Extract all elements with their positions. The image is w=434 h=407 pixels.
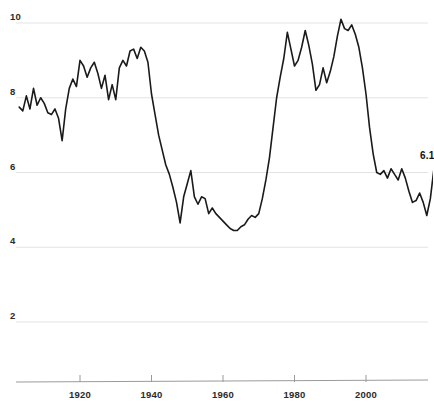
x-tick-label-1920: 1920: [69, 390, 91, 400]
y-tick-label-4: 4: [10, 236, 15, 246]
y-tick-label-8: 8: [10, 87, 15, 97]
series-line-rate: [19, 19, 433, 230]
x-tick-label-1980: 1980: [284, 390, 306, 400]
x-tick-label-1940: 1940: [141, 390, 163, 400]
y-tick-label-10: 10: [10, 12, 21, 22]
x-tick-label-1960: 1960: [212, 390, 234, 400]
y-tick-label-2: 2: [10, 311, 15, 321]
end-value-annotation: 6.1: [420, 151, 434, 161]
gridlines: [16, 23, 428, 322]
y-tick-label-6: 6: [10, 162, 15, 172]
x-tick-label-2000: 2000: [355, 390, 377, 400]
